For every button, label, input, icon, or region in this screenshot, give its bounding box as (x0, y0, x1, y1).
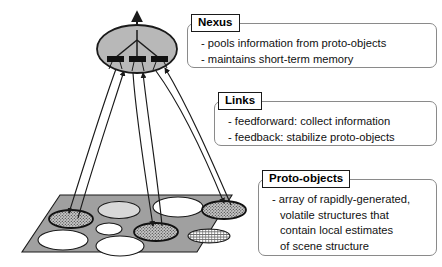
callout-links-label: Links (218, 92, 262, 110)
callout-proto-objects-label: Proto-objects (262, 170, 350, 188)
proto-object-inactive-5 (96, 223, 122, 235)
callout-proto-objects: Proto-objects - array of rapidly-generat… (258, 170, 437, 256)
proto-object-active-4 (202, 201, 246, 219)
callout-proto-objects-line-3: contain local estimates (272, 223, 429, 239)
callout-nexus-line-2: - maintains short-term memory (201, 52, 429, 68)
proto-object-inactive-9 (96, 236, 144, 256)
callout-nexus-label: Nexus (191, 14, 240, 32)
callout-nexus-lines: - pools information from proto-objects -… (201, 36, 429, 67)
callout-nexus-line-1: - pools information from proto-objects (201, 36, 429, 52)
proto-object-hatched-7 (188, 229, 230, 243)
callout-links-line-1: - feedforward: collect information (228, 114, 429, 130)
callout-proto-objects-line-2: volatile structures that (272, 208, 429, 224)
nexus-node-1 (107, 56, 124, 62)
callout-links-line-2: - feedback: stabilize proto-objects (228, 130, 429, 146)
callout-proto-objects-line-1: - array of rapidly-generated, (272, 192, 429, 208)
callout-links: Links - feedforward: collect information… (214, 92, 437, 146)
nexus-node-3 (151, 56, 168, 62)
proto-object-inactive-8 (38, 230, 88, 250)
callout-proto-objects-lines: - array of rapidly-generated, volatile s… (272, 192, 429, 254)
nexus-group (97, 12, 177, 73)
nexus-internal-nodes (107, 56, 168, 62)
callout-proto-objects-line-4: of scene structure (272, 239, 429, 255)
proto-object-active-6 (134, 223, 178, 241)
proto-object-inactive-2 (98, 202, 140, 219)
callout-nexus: Nexus - pools information from proto-obj… (187, 14, 437, 68)
callout-links-lines: - feedforward: collect information - fee… (228, 114, 429, 145)
diagram-root: Nexus - pools information from proto-obj… (0, 0, 442, 267)
link-feedback-left (69, 69, 116, 213)
proto-object-active-1 (49, 210, 93, 228)
ground-plane-group (22, 195, 246, 256)
nexus-node-2 (129, 56, 146, 62)
